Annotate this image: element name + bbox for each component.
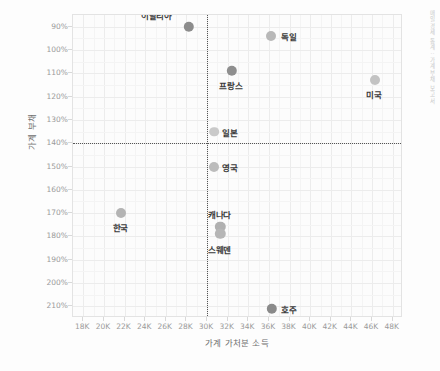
x-tick-label: 30K	[199, 322, 213, 331]
data-point-label: 독일	[281, 30, 297, 42]
y-tick-label: 200%	[47, 278, 68, 287]
x-tick-label: 48K	[384, 322, 398, 331]
x-tick-label: 32K	[219, 322, 233, 331]
x-tick-label: 26K	[158, 322, 172, 331]
data-point[interactable]	[209, 162, 219, 172]
x-tick-mark	[247, 317, 248, 321]
y-tick-mark	[68, 142, 72, 143]
x-tick-mark	[227, 317, 228, 321]
x-tick-mark	[309, 317, 310, 321]
reference-line-horizontal	[73, 143, 401, 144]
data-point[interactable]	[370, 75, 380, 85]
y-tick-label: 120%	[47, 91, 68, 100]
y-tick-label: 130%	[47, 114, 68, 123]
data-point-label: 이탈리아	[141, 14, 172, 21]
y-tick-mark	[68, 166, 72, 167]
y-tick-mark	[68, 96, 72, 97]
watermark-text: 매일경제 통계 : 가계부채 보고서	[429, 10, 437, 104]
y-tick-label: 160%	[47, 184, 68, 193]
y-tick-label: 190%	[47, 254, 68, 263]
x-tick-mark	[206, 317, 207, 321]
x-tick-mark	[124, 317, 125, 321]
x-tick-label: 44K	[343, 322, 357, 331]
data-point-label: 캐나다	[208, 208, 231, 220]
data-point-label: 스웨덴	[208, 243, 231, 255]
x-tick-label: 40K	[302, 322, 316, 331]
y-tick-label: 140%	[47, 138, 68, 147]
x-tick-mark	[392, 317, 393, 321]
x-tick-label: 38K	[281, 322, 295, 331]
data-point-label: 호주	[281, 303, 297, 315]
x-tick-label: 24K	[137, 322, 151, 331]
y-tick-mark	[68, 189, 72, 190]
data-point[interactable]	[266, 31, 276, 41]
y-tick-label: 180%	[47, 231, 68, 240]
x-tick-mark	[289, 317, 290, 321]
y-tick-label: 170%	[47, 208, 68, 217]
x-axis-title: 가계 가처분 소득	[72, 336, 402, 348]
y-tick-mark	[68, 212, 72, 213]
y-tick-mark	[68, 259, 72, 260]
data-point-label: 영국	[222, 161, 238, 173]
y-tick-mark	[68, 235, 72, 236]
x-tick-mark	[350, 317, 351, 321]
y-tick-label: 90%	[51, 21, 68, 30]
y-tick-label: 210%	[47, 301, 68, 310]
data-point[interactable]	[116, 208, 126, 218]
x-tick-mark	[82, 317, 83, 321]
data-point-label: 프랑스	[219, 79, 242, 91]
x-tick-mark	[165, 317, 166, 321]
y-tick-label: 150%	[47, 161, 68, 170]
x-tick-label: 20K	[96, 322, 110, 331]
y-tick-mark	[68, 119, 72, 120]
reference-line-vertical	[207, 15, 208, 316]
y-tick-label: 110%	[47, 68, 68, 77]
y-tick-mark	[68, 72, 72, 73]
x-tick-label: 34K	[240, 322, 254, 331]
plot-area: 이탈리아독일프랑스미국일본영국한국캐나다스웨덴호주	[72, 14, 402, 317]
scatter-chart-figure: 이탈리아독일프랑스미국일본영국한국캐나다스웨덴호주 90%100%110%120…	[0, 0, 440, 371]
x-tick-mark	[330, 317, 331, 321]
x-tick-mark	[185, 317, 186, 321]
x-tick-mark	[144, 317, 145, 321]
data-point-label: 한국	[113, 221, 129, 233]
y-axis-title: 가계 부채	[25, 114, 37, 150]
data-point[interactable]	[209, 127, 219, 137]
data-point-label: 미국	[366, 88, 382, 100]
x-tick-label: 18K	[75, 322, 89, 331]
data-point-label: 일본	[222, 126, 238, 138]
y-tick-mark	[68, 49, 72, 50]
y-tick-mark	[68, 26, 72, 27]
x-tick-label: 42K	[323, 322, 337, 331]
x-tick-mark	[268, 317, 269, 321]
x-tick-label: 28K	[178, 322, 192, 331]
x-tick-label: 46K	[364, 322, 378, 331]
x-tick-mark	[103, 317, 104, 321]
y-tick-mark	[68, 305, 72, 306]
x-tick-label: 36K	[261, 322, 275, 331]
y-tick-mark	[68, 282, 72, 283]
y-tick-label: 100%	[47, 44, 68, 53]
x-tick-label: 22K	[116, 322, 130, 331]
x-tick-mark	[371, 317, 372, 321]
